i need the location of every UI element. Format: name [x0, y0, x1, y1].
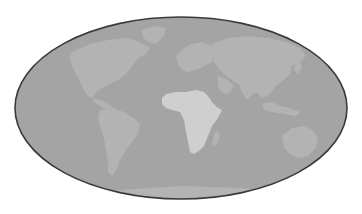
region-antarctica — [40, 186, 330, 214]
world-map-svg — [0, 0, 362, 214]
region-new-zealand — [324, 158, 328, 170]
world-map — [0, 0, 362, 214]
